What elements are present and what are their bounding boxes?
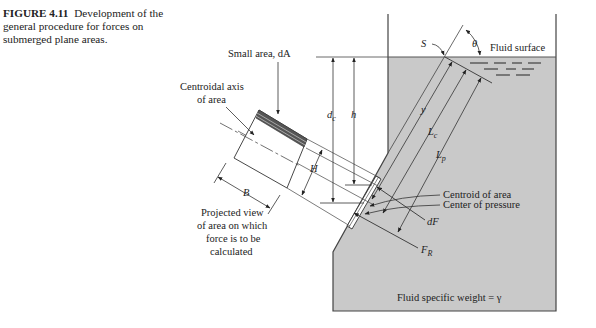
symbol-dc: dc bbox=[327, 109, 336, 123]
symbol-H: H bbox=[309, 163, 319, 174]
depth-dimensions bbox=[320, 58, 372, 203]
fluid-surface-label: Fluid surface bbox=[490, 42, 545, 53]
projected-view-label-2: of area on which bbox=[197, 220, 268, 231]
center-of-pressure-label: Center of pressure bbox=[443, 199, 520, 210]
symbol-S: S bbox=[421, 38, 427, 49]
symbol-dF: dF bbox=[427, 216, 439, 227]
centroidal-axis-label-2: of area bbox=[197, 94, 226, 105]
projected-view-label-3: force is to be bbox=[206, 233, 261, 244]
centroidal-axis-pointer bbox=[226, 107, 254, 135]
small-area-label: Small area, dA bbox=[228, 48, 291, 59]
symbol-y: y bbox=[420, 104, 426, 115]
centroidal-axis-label-1: Centroidal axis bbox=[180, 81, 244, 92]
symbol-B: B bbox=[243, 187, 250, 198]
submerged-plane-diagram: Small area, dA Centroidal axis of area P… bbox=[0, 0, 596, 328]
symbol-h: h bbox=[351, 109, 356, 120]
projected-view-label-1: Projected view bbox=[201, 207, 264, 218]
projected-view-label-4: calculated bbox=[210, 246, 253, 257]
specific-weight-label: Fluid specific weight = γ bbox=[397, 292, 502, 303]
s-pointer bbox=[432, 44, 444, 55]
symbol-theta: θ bbox=[472, 38, 477, 49]
fluid-region bbox=[333, 57, 556, 311]
projected-view-rectangle bbox=[234, 110, 307, 188]
